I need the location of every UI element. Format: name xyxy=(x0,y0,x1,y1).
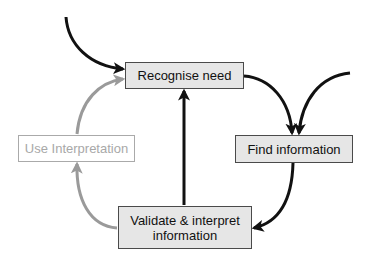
node-validate-interpret: Validate & interpret information xyxy=(118,206,252,249)
node-label: Recognise need xyxy=(138,68,232,83)
arrow-external-to-find xyxy=(299,73,350,133)
diagram-canvas: Recognise need Find information Use Inte… xyxy=(0,0,366,265)
node-find-information: Find information xyxy=(235,135,353,163)
arrow-use-to-recognise xyxy=(77,79,123,134)
node-use-interpretation: Use Interpretation xyxy=(18,135,135,162)
node-label: Find information xyxy=(247,142,340,157)
arrow-find-to-validate xyxy=(254,163,293,228)
node-label: Use Interpretation xyxy=(25,141,128,156)
arrow-external-to-recognise xyxy=(66,17,123,69)
node-label-line1: Validate & interpret xyxy=(130,213,240,228)
node-label-line2: information xyxy=(130,228,240,243)
arrow-recognise-to-find xyxy=(244,76,292,133)
arrow-validate-to-use xyxy=(77,164,117,228)
node-recognise-need: Recognise need xyxy=(125,62,244,89)
